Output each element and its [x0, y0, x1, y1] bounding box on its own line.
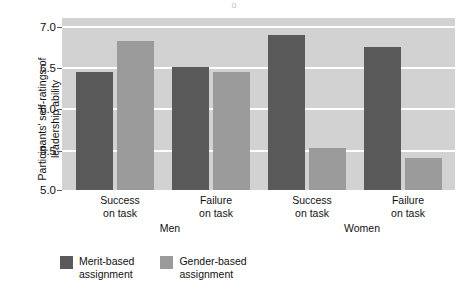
plot-area — [62, 18, 455, 190]
x-category-line-2: on task — [72, 207, 168, 220]
bar-men-failure-gender — [213, 72, 250, 190]
x-category-men-failure: Failure on task — [168, 194, 264, 220]
legend-label-line-1: Gender-based — [179, 255, 246, 268]
legend-item-merit-based: Merit-based assignment — [60, 255, 134, 281]
bar-women-failure-merit — [364, 47, 401, 190]
legend-swatch-icon-gender — [160, 256, 173, 269]
legend-label-gender: Gender-based assignment — [179, 255, 246, 281]
bar-men-failure-merit — [172, 67, 209, 190]
bar-chart-figure: g Participants' self-ratings of leadersh… — [0, 0, 468, 289]
legend: Merit-based assignment Gender-based assi… — [60, 255, 247, 281]
y-tick-label-7-0: 7.0 — [6, 21, 56, 33]
x-category-women-success: Success on task — [264, 194, 360, 220]
y-tick-label-6-0: 6.0 — [6, 103, 56, 115]
legend-item-gender-based: Gender-based assignment — [160, 255, 246, 281]
x-category-line-2: on task — [168, 207, 264, 220]
x-category-line-1: Failure — [360, 194, 456, 207]
legend-label-line-2: assignment — [179, 268, 246, 281]
y-tick-label-6-5: 6.5 — [6, 62, 56, 74]
x-category-line-2: on task — [264, 207, 360, 220]
x-category-line-2: on task — [360, 207, 456, 220]
cropped-title-fragment: g — [0, 0, 468, 8]
bar-women-success-merit — [268, 35, 305, 190]
x-category-line-1: Success — [72, 194, 168, 207]
x-category-line-1: Success — [264, 194, 360, 207]
x-group-label-men: Men — [90, 222, 250, 235]
bar-men-success-merit — [76, 72, 113, 190]
x-group-label-women: Women — [282, 222, 442, 235]
x-category-line-1: Failure — [168, 194, 264, 207]
y-tick-label-5-0: 5.0 — [6, 184, 56, 196]
x-category-women-failure: Failure on task — [360, 194, 456, 220]
gridline-7-0 — [62, 26, 455, 28]
legend-swatch-icon-merit — [60, 256, 73, 269]
bar-women-failure-gender — [405, 158, 442, 190]
legend-label-merit: Merit-based assignment — [79, 255, 134, 281]
legend-label-line-2: assignment — [79, 268, 134, 281]
bar-women-success-gender — [309, 148, 346, 190]
bar-men-success-gender — [117, 41, 154, 190]
x-category-men-success: Success on task — [72, 194, 168, 220]
y-tick-label-5-5: 5.5 — [6, 145, 56, 157]
legend-label-line-1: Merit-based — [79, 255, 134, 268]
y-tick-mark-5-0 — [57, 190, 62, 191]
